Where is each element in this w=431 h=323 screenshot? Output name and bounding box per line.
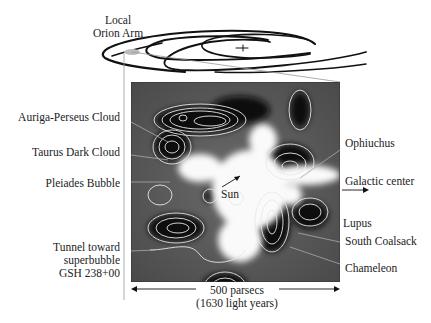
south-coalsack-label: South Coalsack [345,235,417,248]
scale-light-years: (1630 light years) [186,297,288,310]
galactic-center-label: Galactic center [345,175,414,188]
label-line: Local [83,14,153,27]
auriga-perseus-cloud-label: Auriga-Perseus Cloud [18,111,120,124]
sun-label: Sun [221,188,239,201]
scale-label: 500 parsecs (1630 light years) [186,284,288,310]
scale-distance: 500 parsecs [186,284,288,297]
taurus-dark-cloud-label: Taurus Dark Cloud [32,146,120,159]
tunnel-superbubble-label: Tunnel toward superbubble GSH 238+00 [53,241,120,280]
label-line: GSH 238+00 [53,267,120,280]
label-line: Tunnel toward [53,241,120,254]
lupus-label: Lupus [343,217,372,230]
ophiuchus-label: Ophiuchus [345,137,395,150]
pleiades-bubble-label: Pleiades Bubble [46,177,120,190]
label-line: Orion Arm [83,27,153,40]
chameleon-label: Chameleon [345,262,397,275]
local-orion-arm-label: Local Orion Arm [83,14,153,40]
label-line: superbubble [53,254,120,267]
